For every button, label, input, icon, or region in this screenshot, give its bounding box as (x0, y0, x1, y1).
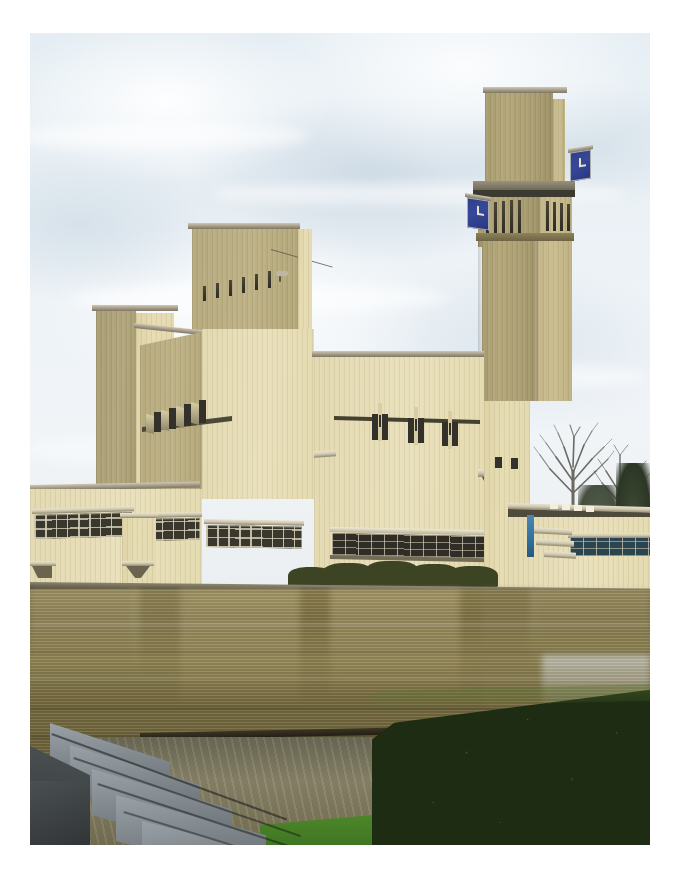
belfry-base-band (476, 233, 574, 241)
tall-window (452, 422, 458, 446)
clock-face-left (467, 197, 489, 230)
ripple (30, 677, 650, 680)
tall-window (382, 414, 388, 440)
fin-window-glass (184, 404, 191, 426)
terrace-light (562, 504, 570, 510)
photo-frame: Hilversum Town Hall (Raadhuis Hilversum)… (0, 0, 680, 891)
slot-window (242, 277, 245, 293)
right-ribbon-lintel (568, 533, 650, 538)
photograph: Hilversum Town Hall (Raadhuis Hilversum)… (30, 33, 650, 845)
stair-block-cap (120, 513, 158, 518)
belfry-opening (560, 203, 563, 231)
cloud-streak (30, 123, 310, 149)
hall-lit-face (202, 329, 314, 499)
belfry-opening (494, 202, 497, 233)
belfry-opening (567, 204, 570, 231)
wall-lamp (276, 271, 288, 276)
slot-window (255, 274, 258, 290)
terrace-light (574, 505, 582, 511)
belfry-opening (553, 202, 556, 231)
fin-window-glass (169, 408, 176, 429)
blue-accent-fin (527, 515, 534, 557)
tall-window (418, 418, 424, 443)
tower-shaft-right-face (538, 241, 572, 401)
belfry-cornice (473, 181, 575, 190)
lamp-bracket (279, 276, 281, 282)
clock-face-right (570, 149, 591, 181)
window-fin (176, 406, 184, 428)
stair-block (122, 516, 156, 592)
tower-shaft-left-face (482, 241, 538, 401)
window-fin (146, 414, 154, 434)
small-window (495, 457, 502, 468)
reflection-right-wing (530, 589, 650, 669)
kerb-shadow (30, 781, 90, 845)
tall-window-upper (449, 423, 451, 435)
belfry-opening (502, 201, 505, 233)
window-fin (161, 410, 169, 431)
slot-window (203, 286, 206, 301)
grid-window (34, 512, 132, 539)
reflection-left-tower (130, 589, 190, 689)
reflection-main-facade (330, 589, 460, 699)
tall-window-upper (379, 415, 381, 427)
tower-corner-highlight (535, 241, 540, 401)
fin-window-glass (154, 412, 161, 432)
clock-hand (579, 164, 586, 167)
right-ribbon-window (570, 538, 650, 556)
left-tower-shaded-face (96, 311, 136, 511)
small-window (511, 458, 518, 469)
slot-window (229, 280, 232, 296)
slot-window (268, 271, 271, 288)
strip-window-band (332, 533, 484, 558)
ripple (30, 651, 650, 653)
terrace-light (550, 503, 558, 509)
ripple (30, 623, 650, 626)
belfry-opening (518, 200, 521, 233)
stair-block-ledge (122, 561, 154, 566)
belfry-opening (546, 201, 549, 231)
tower-upper-block (485, 90, 553, 186)
reflection-left-wing (30, 589, 140, 679)
terrace-light (586, 506, 594, 512)
tower-upper-block-side (553, 99, 565, 187)
tower-upper-coping (483, 87, 567, 93)
fin-window-glass (199, 400, 206, 423)
belfry-opening (510, 200, 513, 233)
reflection-hall (180, 589, 300, 709)
slot-window (216, 283, 219, 298)
window-fin (191, 402, 199, 425)
left-corner-ledge (30, 561, 56, 566)
grid-window (206, 525, 302, 549)
tall-window-upper (415, 419, 417, 431)
